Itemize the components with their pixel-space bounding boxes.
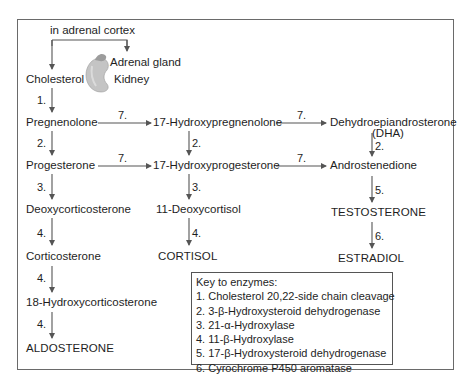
key-item: 5. 17-β-Hydroxysteroid dehydrogenase: [196, 346, 392, 360]
node-17-hydroxyprogesterone: 17-Hydroxyprogesterone: [153, 159, 280, 172]
key-item: 1. Cholesterol 20,22-side chain cleavage: [196, 289, 392, 303]
node-testosterone: TESTOSTERONE: [331, 206, 426, 219]
key-title: Key to enzymes:: [196, 275, 392, 289]
enzyme-label-3: 3.: [37, 181, 46, 193]
enzyme-label-7: 7.: [118, 109, 127, 121]
node-cholesterol: Cholesterol: [26, 73, 84, 86]
key-item: 4. 11-β-Hydroxylase: [196, 332, 392, 346]
kidney-label: Kidney: [114, 73, 149, 86]
enzyme-label-3: 3.: [192, 181, 201, 193]
enzyme-key-box: Key to enzymes: 1. Cholesterol 20,22-sid…: [191, 272, 393, 365]
enzyme-label-6: 6.: [375, 230, 384, 242]
node-progesterone: Progesterone: [26, 159, 95, 172]
enzyme-label-7: 7.: [297, 152, 306, 164]
node-deoxycorticosterone: Deoxycorticosterone: [26, 203, 131, 216]
enzyme-label-2: 2.: [375, 140, 384, 152]
key-item: 2. 3-β-Hydroxysteroid dehydrogenase: [196, 304, 392, 318]
node-cortisol: CORTISOL: [158, 250, 217, 263]
header-label: in adrenal cortex: [50, 24, 135, 37]
node-pregnenolone: Pregnenolone: [26, 116, 98, 129]
enzyme-label-4: 4.: [37, 227, 46, 239]
key-item: 3. 21-α-Hydroxylase: [196, 318, 392, 332]
node-estradiol: ESTRADIOL: [338, 252, 404, 265]
enzyme-label-1: 1.: [37, 94, 46, 106]
enzyme-label-5: 5.: [375, 184, 384, 196]
steroidogenesis-diagram: in adrenal cortex Adrenal gland Kidney C…: [0, 0, 472, 384]
enzyme-label-7: 7.: [297, 109, 306, 121]
node-17-hydroxypregnenolone: 17-Hydroxypregnenolone: [153, 116, 282, 129]
header-bracket-line: [52, 40, 127, 50]
enzyme-label-2: 2.: [37, 137, 46, 149]
adrenal-gland-label: Adrenal gland: [110, 56, 181, 69]
node-11-deoxycortisol: 11-Deoxycortisol: [156, 203, 241, 216]
enzyme-label-7: 7.: [118, 152, 127, 164]
enzyme-label-2: 2.: [192, 137, 201, 149]
key-item: 6. Cyrochrome P450 aromatase: [196, 361, 392, 375]
node-androstenedione: Androstenedione: [330, 159, 417, 172]
node-corticosterone: Corticosterone: [26, 250, 101, 263]
node-dha-abbrev: (DHA): [372, 127, 404, 140]
enzyme-label-4: 4.: [37, 318, 46, 330]
node-18-hydroxycorticosterone: 18-Hydroxycorticosterone: [26, 296, 157, 309]
enzyme-label-4: 4.: [192, 227, 201, 239]
enzyme-label-4: 4.: [37, 272, 46, 284]
adrenal-kidney-icon: [86, 54, 108, 92]
node-aldosterone: ALDOSTERONE: [26, 342, 114, 355]
